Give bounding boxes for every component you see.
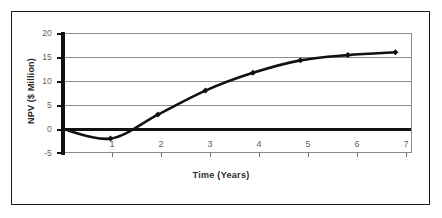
data-point-marker bbox=[250, 70, 256, 76]
data-point-marker bbox=[297, 57, 303, 63]
data-series-layer bbox=[0, 0, 442, 218]
npv-line bbox=[63, 52, 395, 139]
chart-figure: 20 15 10 5 0 -5 1 2 3 4 5 6 7 Time (Year… bbox=[0, 0, 442, 218]
data-point-marker bbox=[392, 49, 398, 55]
data-point-marker bbox=[345, 52, 351, 58]
data-point-marker bbox=[107, 136, 113, 142]
npv-markers bbox=[107, 49, 398, 141]
